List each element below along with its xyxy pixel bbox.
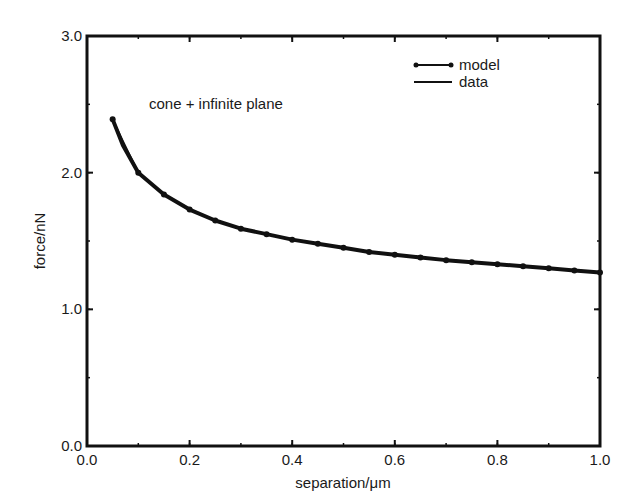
model-data-point	[392, 252, 398, 258]
x-tick-labels: 0.00.20.40.60.81.0	[77, 451, 611, 468]
y-tick-labels: 0.01.02.03.0	[61, 27, 82, 454]
model-data-point	[366, 249, 372, 255]
model-data-point	[212, 218, 218, 224]
model-data-point	[341, 245, 347, 251]
model-data-point	[135, 170, 141, 176]
legend-label-data: data	[459, 73, 489, 90]
model-data-point	[315, 241, 321, 247]
x-tick-label: 0.4	[282, 451, 303, 468]
legend-label-model: model	[459, 56, 500, 73]
model-data-point	[520, 263, 526, 269]
x-tick-label: 0.8	[487, 451, 508, 468]
y-tick-label: 0.0	[61, 437, 82, 454]
model-data-point	[546, 265, 552, 271]
x-axis-label: separation/μm	[295, 474, 390, 491]
x-tick-label: 1.0	[590, 451, 611, 468]
chart-annotation: cone + infinite plane	[149, 95, 283, 112]
model-data-point	[417, 254, 423, 260]
model-data-point	[187, 207, 193, 213]
model-data-point	[238, 226, 244, 232]
model-data-point	[571, 267, 577, 273]
legend-item-data: data	[414, 73, 489, 90]
force-separation-chart: 0.00.20.40.60.81.0 0.01.02.03.0 separati…	[0, 0, 636, 503]
y-tick-label: 2.0	[61, 164, 82, 181]
y-axis-label: force/nN	[31, 213, 48, 270]
model-data-point	[443, 257, 449, 263]
x-tick-label: 0.2	[179, 451, 200, 468]
model-data-point	[469, 259, 475, 265]
model-data-point	[161, 192, 167, 198]
model-data-point	[110, 116, 116, 122]
y-tick-label: 3.0	[61, 27, 82, 44]
legend: model data	[414, 56, 500, 90]
model-data-point	[264, 231, 270, 237]
model-data-point	[289, 237, 295, 243]
legend-item-model: model	[414, 56, 500, 73]
legend-marker-icon	[414, 63, 419, 68]
x-tick-label: 0.6	[384, 451, 405, 468]
y-tick-label: 1.0	[61, 300, 82, 317]
model-data-point	[494, 261, 500, 267]
